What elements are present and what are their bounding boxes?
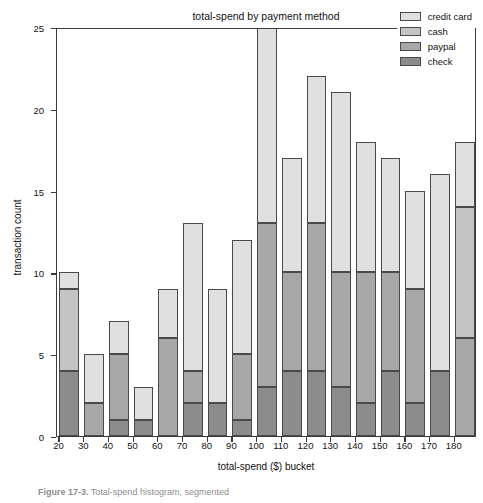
bar-stack bbox=[331, 28, 351, 436]
bar-segment-paypal bbox=[257, 223, 277, 387]
figure-container: total-spend by payment method transactio… bbox=[0, 0, 483, 503]
bar-segment-check bbox=[331, 387, 351, 436]
legend-item: cash bbox=[400, 24, 472, 38]
bar-segment-credit-card bbox=[232, 240, 252, 355]
y-tick-mark bbox=[51, 192, 56, 193]
x-axis-label: total-spend ($) bucket bbox=[56, 461, 476, 472]
bar-segment-check bbox=[109, 420, 129, 436]
bar-stack bbox=[381, 28, 401, 436]
x-tick-mark bbox=[306, 437, 307, 442]
bar-segment-paypal bbox=[455, 338, 475, 436]
caption-text: Total-spend histogram, segmented bbox=[89, 487, 229, 497]
bar-segment-check bbox=[282, 371, 302, 436]
legend-swatch-icon bbox=[400, 12, 421, 21]
x-tick-mark bbox=[454, 437, 455, 442]
bar-stack bbox=[430, 28, 450, 436]
bar-stack bbox=[232, 28, 252, 436]
bar-segment-check bbox=[257, 387, 277, 436]
bar-segment-check bbox=[405, 403, 425, 436]
bar-segment-paypal bbox=[183, 371, 203, 404]
bar-segment-check bbox=[134, 420, 154, 436]
bar-segment-credit-card bbox=[183, 223, 203, 370]
bar-segment-check bbox=[232, 420, 252, 436]
bar-segment-check bbox=[430, 371, 450, 436]
figure-caption: Figure 17-3. Total-spend histogram, segm… bbox=[38, 487, 478, 501]
legend-label: cash bbox=[428, 26, 448, 37]
x-tick-mark bbox=[231, 437, 232, 442]
y-tick-mark bbox=[51, 355, 56, 356]
bars-layer bbox=[57, 29, 475, 436]
x-tick-mark bbox=[355, 437, 356, 442]
legend-label: check bbox=[428, 56, 453, 67]
y-tick-mark bbox=[51, 437, 56, 438]
bar-stack bbox=[455, 28, 475, 436]
bar-segment-paypal bbox=[405, 289, 425, 404]
legend-item: paypal bbox=[400, 39, 472, 53]
bar-segment-credit-card bbox=[307, 76, 327, 223]
y-tick-mark bbox=[51, 110, 56, 111]
bar-segment-check bbox=[356, 403, 376, 436]
x-tick-mark bbox=[330, 437, 331, 442]
legend-label: paypal bbox=[428, 41, 456, 52]
legend-item: check bbox=[400, 54, 472, 68]
legend-swatch-icon bbox=[400, 42, 421, 51]
bar-stack bbox=[257, 28, 277, 436]
bar-segment-credit-card bbox=[455, 142, 475, 207]
y-tick-mark bbox=[51, 273, 56, 274]
bar-segment-paypal bbox=[381, 272, 401, 370]
bar-stack bbox=[405, 28, 425, 436]
bar-segment-credit-card bbox=[84, 354, 104, 403]
bar-segment-check bbox=[183, 403, 203, 436]
bar-segment-cash bbox=[59, 289, 79, 371]
bar-segment-credit-card bbox=[381, 158, 401, 273]
bar-segment-paypal bbox=[84, 403, 104, 436]
bar-stack bbox=[282, 28, 302, 436]
legend-label: credit card bbox=[428, 11, 472, 22]
plot-area bbox=[56, 28, 476, 437]
y-tick-label: 20 bbox=[33, 104, 44, 115]
x-tick-mark bbox=[404, 437, 405, 442]
x-tick-mark bbox=[58, 437, 59, 442]
bar-segment-paypal bbox=[331, 272, 351, 387]
bar-segment-check bbox=[208, 403, 228, 436]
x-tick-mark bbox=[207, 437, 208, 442]
bar-segment-paypal bbox=[282, 272, 302, 370]
x-axis-tick-labels: 2030405060708090100110120130140150160170… bbox=[56, 440, 476, 456]
y-tick-label: 15 bbox=[33, 186, 44, 197]
bar-segment-paypal bbox=[158, 338, 178, 436]
bar-stack bbox=[158, 28, 178, 436]
bar-segment-check bbox=[381, 371, 401, 436]
legend-swatch-icon bbox=[400, 27, 421, 36]
x-tick-mark bbox=[83, 437, 84, 442]
bar-segment-check bbox=[307, 371, 327, 436]
bar-stack bbox=[134, 28, 154, 436]
y-tick-mark bbox=[51, 28, 56, 29]
bar-segment-credit-card bbox=[356, 142, 376, 273]
bar-segment-paypal bbox=[307, 223, 327, 370]
bar-stack bbox=[84, 28, 104, 436]
bar-stack bbox=[59, 28, 79, 436]
bar-segment-credit-card bbox=[59, 272, 79, 288]
bar-segment-credit-card bbox=[282, 158, 302, 273]
caption-prefix: Figure 17-3. bbox=[38, 487, 89, 497]
bar-stack bbox=[109, 28, 129, 436]
legend-item: credit card bbox=[400, 9, 472, 23]
bar-segment-cash bbox=[455, 207, 475, 338]
legend: credit cardcashpaypalcheck bbox=[397, 7, 475, 71]
y-tick-label: 0 bbox=[39, 432, 44, 443]
bar-stack bbox=[183, 28, 203, 436]
bar-segment-check bbox=[59, 371, 79, 436]
bar-segment-credit-card bbox=[158, 289, 178, 338]
x-tick-mark bbox=[133, 437, 134, 442]
x-tick-mark bbox=[108, 437, 109, 442]
bar-segment-paypal bbox=[109, 354, 129, 419]
y-tick-label: 10 bbox=[33, 268, 44, 279]
y-tick-label: 5 bbox=[39, 350, 44, 361]
bar-segment-credit-card bbox=[109, 321, 129, 354]
bar-segment-credit-card bbox=[405, 191, 425, 289]
bar-segment-credit-card bbox=[134, 387, 154, 420]
bar-stack bbox=[307, 28, 327, 436]
bar-segment-credit-card bbox=[208, 289, 228, 404]
x-tick-mark bbox=[380, 437, 381, 442]
x-tick-mark bbox=[157, 437, 158, 442]
